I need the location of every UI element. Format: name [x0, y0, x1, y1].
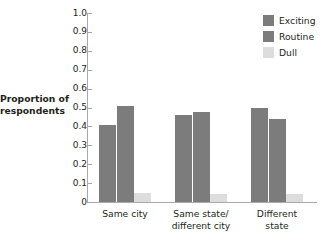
y-axis-tick-label: 0.6: [61, 84, 87, 93]
legend-label: Routine: [279, 31, 314, 42]
legend-label: Exciting: [279, 15, 316, 26]
legend-label: Dull: [279, 47, 297, 58]
bar-group: [99, 13, 151, 202]
bar-dull[interactable]: [286, 194, 303, 203]
y-axis-tick-label: 0.9: [61, 27, 87, 36]
x-axis-label-line2: state: [232, 220, 322, 232]
y-axis-tick-label: 0.7: [61, 65, 87, 74]
y-axis-tick-label: 0.5: [61, 103, 87, 112]
y-axis-tick-label: 0.8: [61, 46, 87, 55]
x-axis-label-line1: Different: [232, 208, 322, 220]
bar-dull[interactable]: [210, 194, 227, 203]
legend-item-dull[interactable]: Dull: [263, 45, 324, 59]
bar-exciting[interactable]: [99, 125, 116, 202]
bar-exciting[interactable]: [175, 115, 192, 202]
y-axis-tick-label: 0.1: [61, 179, 87, 188]
legend-swatch-icon: [263, 31, 274, 42]
bar-dull[interactable]: [134, 193, 151, 202]
y-axis-tick-label: 0: [61, 198, 87, 207]
y-axis-tick-label: 0.3: [61, 141, 87, 150]
bar-routine[interactable]: [193, 112, 210, 202]
bar-routine[interactable]: [269, 119, 286, 202]
legend-swatch-icon: [263, 47, 274, 58]
bar-chart: Proportion of respondents 00.10.20.30.40…: [0, 0, 324, 236]
y-axis-tick-label: 1.0: [61, 9, 87, 18]
y-axis-tick-label: 0.4: [61, 122, 87, 131]
legend-item-routine[interactable]: Routine: [263, 29, 324, 43]
y-axis-tick-label: 0.2: [61, 160, 87, 169]
chart-legend: ExcitingRoutineDull: [263, 13, 324, 61]
x-axis-line: [87, 202, 317, 203]
legend-item-exciting[interactable]: Exciting: [263, 13, 324, 27]
y-axis-tick-labels: 00.10.20.30.40.50.60.70.80.91.0: [55, 13, 87, 202]
x-axis-label: Differentstate: [232, 208, 322, 231]
bar-exciting[interactable]: [251, 108, 268, 203]
bar-routine[interactable]: [117, 106, 134, 202]
bar-group: [175, 13, 227, 202]
legend-swatch-icon: [263, 15, 274, 26]
